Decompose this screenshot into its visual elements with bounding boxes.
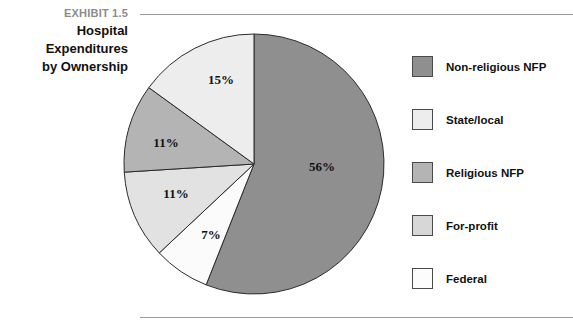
divider-bottom	[140, 317, 573, 318]
exhibit-title-line-2: Expenditures	[0, 40, 128, 57]
legend-item[interactable]: Non-religious NFP	[412, 40, 572, 93]
pie-chart-svg: 56%7%11%11%15%	[123, 33, 385, 295]
legend-swatch-icon	[412, 162, 433, 183]
exhibit-caption: EXHIBIT 1.5 Hospital Expenditures by Own…	[0, 6, 128, 75]
pie-slice-label: 7%	[201, 227, 221, 242]
chart-legend: Non-religious NFP State/local Religious …	[412, 40, 572, 305]
legend-item[interactable]: Federal	[412, 252, 572, 305]
legend-swatch-icon	[412, 268, 433, 289]
pie-slice-label: 11%	[163, 186, 188, 201]
legend-swatch-icon	[412, 215, 433, 236]
legend-swatch-icon	[412, 109, 433, 130]
legend-item-label: For-profit	[446, 220, 498, 232]
exhibit-title-line-3: by Ownership	[0, 58, 128, 75]
pie-slice-label: 15%	[208, 72, 234, 87]
legend-item-label: Religious NFP	[446, 167, 524, 179]
exhibit-number: EXHIBIT 1.5	[0, 6, 128, 21]
divider-top	[140, 14, 573, 15]
legend-item[interactable]: State/local	[412, 93, 572, 146]
legend-swatch-icon	[412, 56, 433, 77]
pie-slice-label: 56%	[309, 159, 335, 174]
pie-chart: 56%7%11%11%15%	[123, 33, 385, 295]
legend-item-label: State/local	[446, 114, 504, 126]
exhibit-title-line-1: Hospital	[0, 22, 128, 39]
legend-item[interactable]: For-profit	[412, 199, 572, 252]
pie-slice-label: 11%	[153, 135, 178, 150]
legend-item-label: Federal	[446, 273, 487, 285]
legend-item[interactable]: Religious NFP	[412, 146, 572, 199]
legend-item-label: Non-religious NFP	[446, 61, 546, 73]
